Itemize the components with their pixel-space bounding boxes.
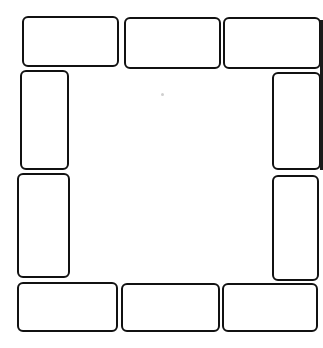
sketch-canvas	[0, 0, 323, 348]
scan-speck	[161, 93, 164, 96]
box-bottom-left	[17, 282, 118, 332]
box-top-left	[22, 16, 119, 67]
box-bottom-right	[222, 283, 318, 332]
box-left-upper	[20, 70, 69, 170]
box-top-middle	[124, 17, 221, 69]
box-right-lower	[272, 175, 319, 281]
box-top-right	[223, 17, 321, 69]
box-bottom-middle	[121, 283, 220, 332]
box-left-lower	[17, 173, 70, 278]
box-right-upper	[272, 72, 321, 170]
